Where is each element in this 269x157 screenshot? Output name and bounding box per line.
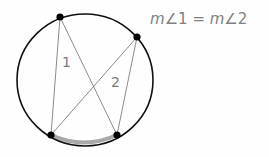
chord-right-to-bottom-right: [117, 37, 137, 135]
measure-symbol-1: m: [150, 10, 165, 28]
angle-2-label: 2: [111, 74, 120, 90]
chord-top-to-bottom-left: [51, 17, 60, 135]
point-bottom-left: [47, 131, 54, 138]
point-top: [56, 13, 63, 20]
point-bottom-right: [113, 131, 120, 138]
chord-top-to-bottom-right: [60, 17, 117, 135]
angle-1-ref: ∠1: [165, 10, 188, 28]
equals-sign: =: [188, 10, 210, 28]
chord-right-to-bottom-left: [51, 37, 137, 135]
equation-text: m∠1 = m∠2: [150, 10, 247, 28]
circle: [17, 14, 153, 146]
point-right: [133, 33, 140, 40]
inscribed-angles-diagram: 1 2 m∠1 = m∠2: [0, 0, 269, 157]
angle-1-label: 1: [62, 54, 71, 70]
measure-symbol-2: m: [210, 10, 225, 28]
angle-2-ref: ∠2: [224, 10, 247, 28]
